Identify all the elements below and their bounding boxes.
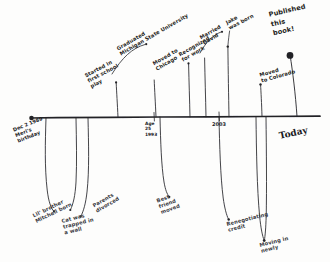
event-stem-above <box>228 47 229 117</box>
event-stem-above <box>189 64 190 117</box>
event-loop-below <box>71 118 77 210</box>
event-dot <box>187 62 189 64</box>
event-stem-above <box>154 80 156 117</box>
timeline-axis <box>31 116 320 118</box>
event-loop-below <box>81 118 89 216</box>
leader-curve <box>228 31 230 46</box>
timeline-sketch-canvas: Dec 2 1989 Meri's birthday Age 25 1993 2… <box>0 0 330 262</box>
event-stem-above <box>261 85 262 117</box>
event-dot-published <box>287 52 294 59</box>
event-dot <box>115 81 117 83</box>
event-loop-below <box>219 117 228 219</box>
axis-tick-label-1: 2003 <box>212 121 226 127</box>
event-loop-below <box>160 117 169 197</box>
event-stem-above <box>205 58 206 117</box>
axis-tick-label-0: Age 25 1993 <box>145 121 157 137</box>
event-stem-above <box>116 83 118 117</box>
